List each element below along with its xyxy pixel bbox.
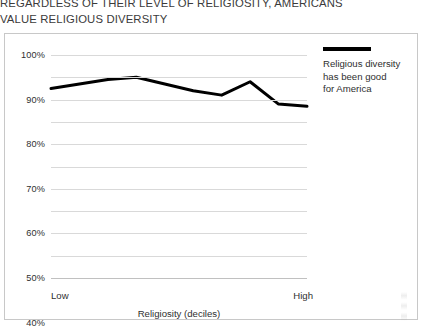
gridline-60: 60%	[51, 144, 307, 145]
legend-label-line-2: has been good	[323, 71, 415, 84]
y-axis-tick-80: 80%	[26, 139, 45, 149]
legend-label-line-1: Religious diversity	[323, 58, 415, 71]
legend-label-line-3: for America	[323, 83, 415, 96]
gridline-70: 70%	[51, 122, 307, 123]
gridline-50: 50%	[51, 167, 307, 168]
y-axis-tick-100: 100%	[21, 50, 45, 60]
title-line-1: REGARDLESS OF THEIR LEVEL OF RELIGIOSITY…	[0, 0, 420, 12]
watermark-artifact	[401, 292, 407, 322]
gridline-10: 10%	[51, 256, 307, 257]
chart-legend: Religious diversity has been good for Am…	[323, 47, 415, 96]
y-axis-tick-90: 90%	[26, 95, 45, 105]
page-title: REGARDLESS OF THEIR LEVEL OF RELIGIOSITY…	[0, 0, 420, 27]
y-axis-tick-70: 70%	[26, 184, 45, 194]
legend-label: Religious diversity has been good for Am…	[323, 58, 415, 96]
series-polyline	[51, 77, 307, 106]
x-axis-label-low: Low	[51, 290, 69, 301]
gridline-100: 100%	[51, 55, 307, 56]
x-axis-label-high: High	[293, 290, 313, 301]
gridline-80: 80%	[51, 100, 307, 101]
gridline-90: 90%	[51, 77, 307, 78]
gridline-40: 40%	[51, 189, 307, 190]
chart-frame: Low High Religiosity (deciles) 0%10%20%3…	[4, 33, 418, 320]
y-axis-tick-40: 40%	[26, 318, 45, 328]
title-line-2: VALUE RELIGIOUS DIVERSITY	[0, 12, 420, 28]
gridline-20: 20%	[51, 233, 307, 234]
x-axis-title: Religiosity (deciles)	[51, 308, 307, 319]
y-axis-tick-60: 60%	[26, 228, 45, 238]
plot-area: Low High Religiosity (deciles) 0%10%20%3…	[51, 55, 307, 278]
gridline-0: 0%	[51, 278, 307, 279]
y-axis-tick-50: 50%	[26, 273, 45, 283]
legend-swatch-icon	[323, 47, 371, 51]
gridline-30: 30%	[51, 211, 307, 212]
